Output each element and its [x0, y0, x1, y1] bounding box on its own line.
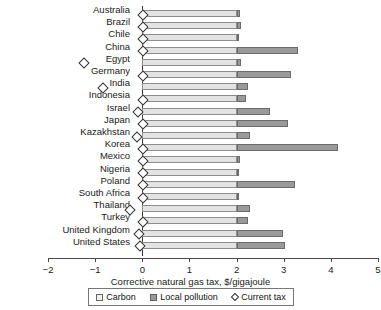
bar-row — [48, 181, 378, 188]
x-tick-label: 2 — [234, 264, 239, 275]
bar-row — [48, 34, 378, 41]
bar-segment-carbon — [142, 95, 236, 102]
bar-segment-local-pollution — [237, 132, 250, 139]
bar-segment-carbon — [142, 10, 236, 17]
bar-segment-carbon — [142, 83, 236, 90]
bar-segment-local-pollution — [237, 59, 242, 66]
bar-row — [48, 205, 378, 212]
bar-segment-local-pollution — [237, 217, 248, 224]
x-tick-label: 0 — [140, 264, 145, 275]
bar-segment-carbon — [142, 59, 236, 66]
bar-segment-carbon — [142, 205, 236, 212]
bar-segment-carbon — [142, 132, 236, 139]
bar-row — [48, 144, 378, 151]
bar-row — [48, 108, 378, 115]
bar-segment-local-pollution — [237, 205, 250, 212]
bar-segment-local-pollution — [237, 83, 248, 90]
legend-label-carbon: Carbon — [106, 292, 136, 302]
x-tick-label: 3 — [281, 264, 286, 275]
bar-segment-carbon — [142, 181, 236, 188]
bar-row — [48, 95, 378, 102]
bar-row — [48, 230, 378, 237]
x-tick-label: 4 — [328, 264, 333, 275]
bar-row — [48, 132, 378, 139]
chart-legend: Carbon Local pollution Current tax — [88, 288, 294, 306]
bar-segment-carbon — [142, 169, 236, 176]
bar-segment-local-pollution — [237, 230, 284, 237]
carbon-swatch-icon — [96, 294, 103, 301]
diamond-marker-icon — [231, 293, 239, 301]
x-tick — [48, 258, 49, 262]
bar-row — [48, 59, 378, 66]
x-tick — [189, 258, 190, 262]
bar-segment-local-pollution — [237, 47, 298, 54]
bar-row — [48, 120, 378, 127]
bar-segment-local-pollution — [237, 156, 240, 163]
legend-item-current-tax: Current tax — [232, 292, 286, 302]
legend-item-carbon: Carbon — [96, 292, 136, 302]
bar-segment-local-pollution — [237, 242, 286, 249]
bar-segment-carbon — [142, 217, 236, 224]
bar-segment-carbon — [142, 22, 236, 29]
bar-segment-local-pollution — [237, 169, 239, 176]
x-axis-line — [48, 258, 378, 259]
bar-segment-carbon — [142, 193, 236, 200]
bar-segment-carbon — [142, 144, 236, 151]
x-tick — [95, 258, 96, 262]
x-tick-label: −1 — [90, 264, 101, 275]
legend-label-current-tax: Current tax — [241, 292, 286, 302]
bar-segment-carbon — [142, 108, 236, 115]
bar-segment-local-pollution — [237, 34, 240, 41]
bar-segment-carbon — [142, 242, 236, 249]
bar-segment-local-pollution — [237, 181, 296, 188]
bar-segment-local-pollution — [237, 22, 242, 29]
bar-row — [48, 10, 378, 17]
bar-row — [48, 22, 378, 29]
x-tick — [378, 258, 379, 262]
bar-segment-local-pollution — [237, 193, 239, 200]
x-tick-label: 1 — [187, 264, 192, 275]
x-tick-label: 5 — [375, 264, 380, 275]
bar-segment-carbon — [142, 230, 236, 237]
plot-area — [48, 6, 378, 256]
x-tick-label: −2 — [43, 264, 54, 275]
bar-row — [48, 71, 378, 78]
legend-item-local-pollution: Local pollution — [150, 292, 218, 302]
bar-row — [48, 47, 378, 54]
bar-segment-local-pollution — [237, 95, 246, 102]
x-tick — [331, 258, 332, 262]
bar-segment-local-pollution — [237, 108, 270, 115]
pollution-swatch-icon — [150, 294, 157, 301]
bar-segment-carbon — [142, 156, 236, 163]
x-tick — [284, 258, 285, 262]
x-tick — [237, 258, 238, 262]
bar-segment-carbon — [142, 120, 236, 127]
bar-row — [48, 156, 378, 163]
bar-segment-carbon — [142, 71, 236, 78]
x-tick — [142, 258, 143, 262]
bar-segment-carbon — [142, 47, 236, 54]
bar-row — [48, 169, 378, 176]
bar-segment-local-pollution — [237, 10, 241, 17]
bar-row — [48, 242, 378, 249]
legend-label-local-pollution: Local pollution — [160, 292, 218, 302]
bar-segment-carbon — [142, 34, 236, 41]
bar-segment-local-pollution — [237, 144, 338, 151]
chart-container: AustraliaBrazilChileChinaEgyptGermanyInd… — [0, 0, 381, 310]
x-axis-label: Corrective natural gas tax, $/gigajoule — [0, 276, 381, 287]
bar-segment-local-pollution — [237, 71, 291, 78]
bar-row — [48, 193, 378, 200]
bar-segment-local-pollution — [237, 120, 289, 127]
bar-row — [48, 217, 378, 224]
